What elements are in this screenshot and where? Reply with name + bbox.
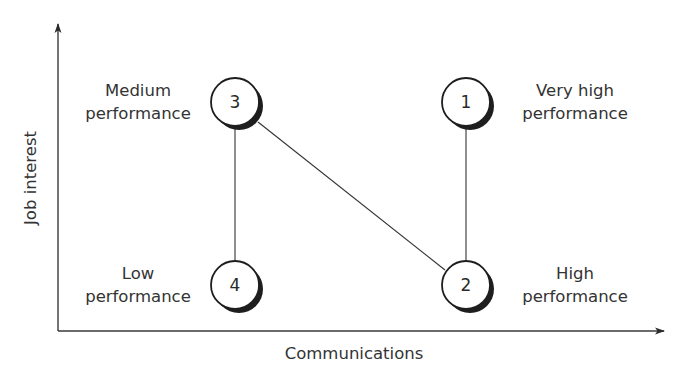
label-medium-line1: Medium — [78, 79, 198, 102]
node-2: 2 — [442, 261, 494, 313]
label-very-high-line2: performance — [510, 102, 640, 125]
node-4: 4 — [211, 261, 263, 313]
label-low-performance: Low performance — [78, 262, 198, 308]
node-4-number: 4 — [230, 275, 241, 295]
label-low-line1: Low — [78, 262, 198, 285]
label-high-line1: High — [510, 262, 640, 285]
x-axis-title: Communications — [285, 344, 424, 363]
y-axis-title: Job interest — [21, 131, 40, 225]
label-very-high-line1: Very high — [510, 79, 640, 102]
label-high-performance: High performance — [510, 262, 640, 308]
performance-diagram: 3 1 4 2 — [0, 0, 682, 373]
node-3: 3 — [211, 78, 263, 130]
node-1: 1 — [442, 78, 494, 130]
label-medium-performance: Medium performance — [78, 79, 198, 125]
label-low-line2: performance — [78, 285, 198, 308]
node-2-number: 2 — [461, 275, 472, 295]
node-1-number: 1 — [461, 92, 472, 112]
node-3-number: 3 — [230, 92, 241, 112]
label-medium-line2: performance — [78, 102, 198, 125]
edge-3-to-2 — [258, 122, 445, 270]
label-very-high-performance: Very high performance — [510, 79, 640, 125]
label-high-line2: performance — [510, 285, 640, 308]
